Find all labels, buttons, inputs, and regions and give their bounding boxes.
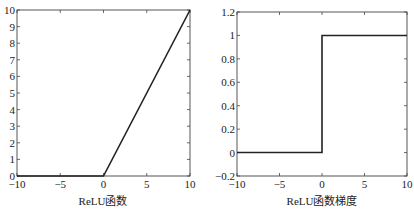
relu-gradient-chart-ytick-label: −0.2 bbox=[215, 170, 235, 182]
relu-gradient-chart-ytick-label: 0 bbox=[230, 147, 236, 159]
relu-gradient-chart-xtick-label: 10 bbox=[402, 178, 414, 190]
relu-gradient-chart-xtick-label: −5 bbox=[274, 178, 286, 190]
relu-gradient-chart-xtick-label: 5 bbox=[362, 178, 368, 190]
relu-gradient-chart-xlabel: ReLU函数梯度 bbox=[287, 192, 358, 208]
relu-gradient-chart-ytick-label: 1 bbox=[230, 29, 236, 41]
relu-gradient-chart-ytick-label: 0.8 bbox=[221, 53, 235, 65]
relu-gradient-chart-ytick-label: 0.6 bbox=[221, 76, 235, 88]
relu-gradient-chart-ytick-label: 1.2 bbox=[221, 6, 235, 18]
relu-gradient-chart-ytick-label: 0.2 bbox=[221, 123, 235, 135]
relu-gradient-chart-xtick-label: 0 bbox=[319, 178, 325, 190]
relu-gradient-chart: −10−50510−0.200.20.40.60.811.2 bbox=[0, 0, 414, 215]
relu-chart-xlabel: ReLU函数 bbox=[79, 192, 128, 208]
relu-gradient-chart-series-line bbox=[237, 35, 407, 152]
relu-gradient-chart-ytick-label: 0.4 bbox=[221, 100, 235, 112]
